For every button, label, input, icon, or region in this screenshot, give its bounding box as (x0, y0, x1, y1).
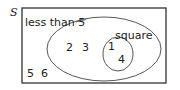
less-than-5-label: less than 5 (25, 16, 85, 29)
element-5: 5 (27, 67, 34, 80)
element-4: 4 (118, 53, 125, 66)
element-2: 2 (66, 41, 73, 54)
universal-set-label: S (10, 6, 18, 19)
venn-diagram: S less than 5 square 2 3 1 4 5 6 (0, 0, 180, 90)
element-3: 3 (82, 41, 89, 54)
element-1: 1 (108, 40, 115, 53)
square-label: square (115, 29, 153, 42)
element-6: 6 (41, 67, 48, 80)
